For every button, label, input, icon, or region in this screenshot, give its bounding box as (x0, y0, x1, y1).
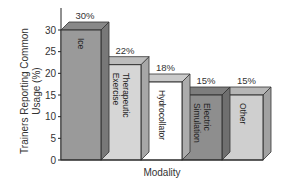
value-label: 22% (115, 45, 135, 56)
value-label: 30% (75, 10, 95, 21)
y-axis-title-line2: Usage (%) (31, 67, 42, 114)
value-label: 18% (156, 62, 176, 73)
x-axis-title: Modality (143, 167, 180, 178)
bar-category-label: Ice (76, 38, 86, 50)
y-tick-label: 10 (45, 111, 57, 122)
bar-category-label: Other (238, 103, 248, 124)
value-label: 15% (237, 75, 257, 86)
bar-category-label: Simulation (192, 103, 202, 143)
y-axis: 051015202530 (45, 8, 61, 166)
y-tick-label: 15 (45, 90, 57, 101)
y-tick-label: 30 (45, 25, 57, 36)
bars: 15%Other15%ElectricSimulation18%Hydrocol… (61, 10, 271, 160)
y-axis-title-line1: Trainers Reporting Common (19, 28, 30, 154)
y-tick-label: 5 (50, 133, 56, 144)
y-tick-label: 20 (45, 68, 57, 79)
bar-category-label: Electric (202, 103, 212, 132)
bar-chart: 051015202530 15%Other15%ElectricSimulati… (0, 0, 291, 186)
bar-category-label: Exercise (111, 73, 121, 106)
value-label: 15% (196, 75, 216, 86)
bar-category-label: Therapeutic (121, 73, 131, 119)
y-tick-label: 0 (50, 155, 56, 166)
bar-ice: 30%Ice (61, 10, 109, 160)
bar-category-label: Hydrocollator (157, 90, 167, 140)
y-tick-label: 25 (45, 46, 57, 57)
